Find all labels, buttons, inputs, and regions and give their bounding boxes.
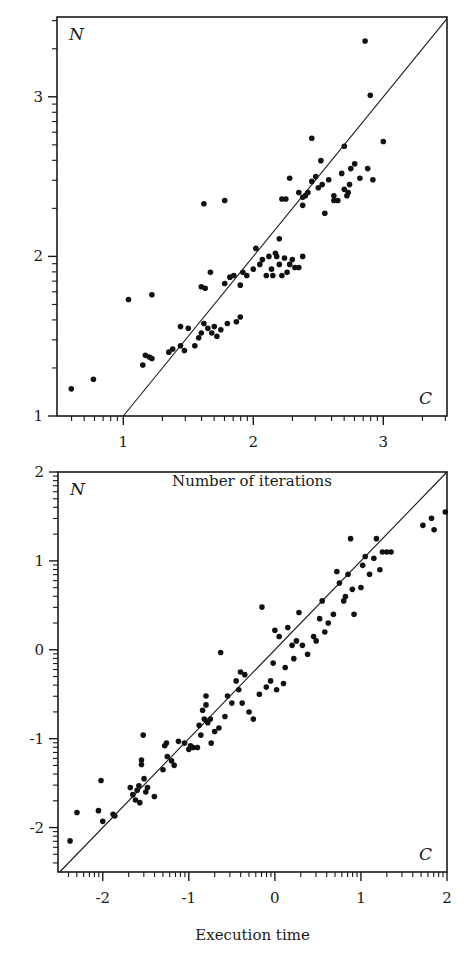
data-point xyxy=(370,177,376,183)
figure: 123123Number of iterationsNC -2-1012-2-1… xyxy=(0,0,475,960)
data-point xyxy=(279,273,285,279)
data-point xyxy=(218,327,224,333)
data-point xyxy=(137,800,143,806)
data-point xyxy=(196,723,202,729)
x-tick-label: -2 xyxy=(95,889,110,907)
x-tick-label: 2 xyxy=(442,889,452,907)
data-point xyxy=(257,262,263,268)
data-point xyxy=(362,554,368,560)
data-point xyxy=(309,135,315,141)
data-point xyxy=(171,763,177,769)
data-point xyxy=(198,732,204,738)
data-point xyxy=(282,255,288,261)
x-tick-label: -1 xyxy=(182,889,197,907)
data-point xyxy=(266,254,272,260)
data-point xyxy=(214,333,220,339)
data-point xyxy=(303,193,309,199)
data-point xyxy=(208,270,214,276)
data-point xyxy=(202,286,208,292)
data-point xyxy=(149,356,155,362)
data-point xyxy=(231,273,237,279)
data-point xyxy=(236,687,242,693)
data-point xyxy=(277,236,283,242)
data-point xyxy=(319,182,325,188)
data-point xyxy=(225,693,231,699)
data-point xyxy=(352,161,358,167)
x-tick-label: 0 xyxy=(270,889,280,907)
data-point xyxy=(368,92,374,98)
data-point xyxy=(176,739,182,745)
data-point xyxy=(257,691,263,697)
data-point xyxy=(225,321,231,327)
data-point xyxy=(274,687,280,693)
data-point xyxy=(96,808,102,814)
data-point xyxy=(67,838,73,844)
y-tick-label: 2 xyxy=(34,463,44,481)
data-point xyxy=(442,509,448,515)
data-point xyxy=(127,785,133,791)
data-point xyxy=(309,179,315,185)
data-point xyxy=(277,262,283,268)
data-point xyxy=(334,569,340,575)
data-point xyxy=(200,707,206,713)
data-point xyxy=(234,319,240,325)
data-point xyxy=(238,314,244,320)
data-point xyxy=(313,638,319,644)
data-point xyxy=(289,643,295,649)
data-point xyxy=(229,700,235,706)
data-point xyxy=(222,198,228,204)
data-point xyxy=(343,594,349,600)
data-point xyxy=(270,273,276,279)
data-point xyxy=(331,193,337,199)
data-point xyxy=(337,580,343,586)
data-point xyxy=(238,282,244,288)
data-point xyxy=(362,38,368,44)
data-point xyxy=(272,627,278,633)
data-point xyxy=(322,211,328,217)
data-point xyxy=(164,754,170,760)
data-point xyxy=(164,740,170,746)
data-point xyxy=(322,629,328,635)
data-point xyxy=(152,794,158,800)
data-point xyxy=(294,638,300,644)
data-point xyxy=(264,273,270,279)
corner-label-c: C xyxy=(419,844,432,864)
data-point xyxy=(259,604,265,610)
data-point xyxy=(296,190,302,196)
x-tick-label: 1 xyxy=(356,889,366,907)
data-point xyxy=(246,709,252,715)
y-axis-ticks xyxy=(48,21,57,416)
corner-label-n: N xyxy=(68,24,85,44)
data-point xyxy=(222,281,228,287)
data-point xyxy=(140,362,146,368)
data-point xyxy=(100,819,106,825)
data-point xyxy=(335,198,341,204)
data-point xyxy=(242,672,248,678)
data-point xyxy=(276,634,282,640)
data-point xyxy=(170,346,176,352)
data-point xyxy=(300,254,306,260)
data-point xyxy=(350,587,356,593)
data-point xyxy=(244,273,250,279)
data-point xyxy=(126,297,132,303)
data-point xyxy=(149,292,155,298)
data-point xyxy=(98,778,104,784)
data-point xyxy=(216,725,222,731)
data-point xyxy=(342,143,348,149)
data-point xyxy=(345,190,351,196)
data-point xyxy=(203,693,209,699)
data-point xyxy=(136,783,142,789)
data-point xyxy=(196,335,202,341)
data-point xyxy=(282,665,288,671)
data-point xyxy=(251,716,257,722)
data-point xyxy=(296,265,302,271)
data-point xyxy=(233,678,239,684)
data-point xyxy=(358,585,364,591)
data-point xyxy=(367,571,373,577)
reference-line-y-equals-x xyxy=(123,19,447,416)
data-point xyxy=(186,325,192,331)
data-point xyxy=(365,166,371,172)
y-tick-label: 0 xyxy=(34,641,44,659)
data-point xyxy=(112,813,118,819)
y-tick-label: -2 xyxy=(29,819,44,837)
